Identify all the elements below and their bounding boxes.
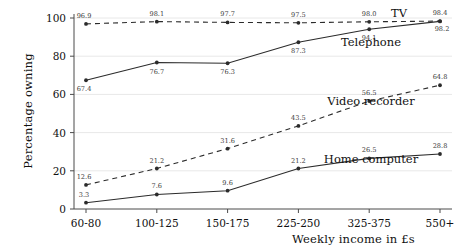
svg-text:7.6: 7.6 xyxy=(152,182,163,190)
svg-text:550+: 550+ xyxy=(426,217,455,229)
svg-text:80: 80 xyxy=(53,50,66,62)
svg-text:3.3: 3.3 xyxy=(79,191,90,199)
svg-text:100-125: 100-125 xyxy=(135,217,179,229)
svg-text:60-80: 60-80 xyxy=(71,217,101,229)
svg-text:225-250: 225-250 xyxy=(277,217,321,229)
chart-container: 020406080100 60-80100-125150-175225-2503… xyxy=(0,0,466,251)
svg-text:Home computer: Home computer xyxy=(324,152,419,166)
svg-text:60: 60 xyxy=(53,88,66,100)
y-axis-title: Percentage owning xyxy=(21,41,35,181)
svg-text:87.3: 87.3 xyxy=(291,47,306,55)
svg-text:20: 20 xyxy=(53,165,66,177)
svg-text:98.4: 98.4 xyxy=(433,9,448,17)
svg-text:Telephone: Telephone xyxy=(341,35,401,49)
x-axis-ticks: 60-80100-125150-175225-250325-375550+ xyxy=(71,209,455,229)
svg-text:96.9: 96.9 xyxy=(77,12,92,20)
svg-text:325-375: 325-375 xyxy=(347,217,391,229)
svg-text:43.5: 43.5 xyxy=(291,114,306,122)
svg-text:21.2: 21.2 xyxy=(149,157,164,165)
svg-text:40: 40 xyxy=(53,127,66,139)
svg-text:98.2: 98.2 xyxy=(435,25,450,33)
svg-text:97.7: 97.7 xyxy=(220,10,235,18)
svg-text:28.8: 28.8 xyxy=(433,142,448,150)
svg-text:64.8: 64.8 xyxy=(433,73,448,81)
svg-text:76.3: 76.3 xyxy=(220,68,235,76)
series-name-labels: TVTelephoneVideo recorderHome computer xyxy=(324,6,419,166)
line-chart-plot: 020406080100 60-80100-125150-175225-2503… xyxy=(0,0,466,251)
svg-text:98.1: 98.1 xyxy=(149,10,164,18)
y-axis-ticks: 020406080100 xyxy=(46,12,74,215)
svg-text:100: 100 xyxy=(46,12,66,24)
svg-text:150-175: 150-175 xyxy=(206,217,250,229)
svg-text:12.6: 12.6 xyxy=(77,173,92,181)
svg-text:21.2: 21.2 xyxy=(291,157,306,165)
svg-text:0: 0 xyxy=(59,203,66,215)
svg-text:98.0: 98.0 xyxy=(362,10,377,18)
svg-text:76.7: 76.7 xyxy=(149,68,164,76)
svg-text:67.4: 67.4 xyxy=(77,85,92,93)
svg-text:9.6: 9.6 xyxy=(222,179,233,187)
svg-text:31.6: 31.6 xyxy=(220,137,235,145)
svg-text:97.5: 97.5 xyxy=(291,11,306,19)
svg-text:Video recorder: Video recorder xyxy=(326,94,415,108)
svg-text:TV: TV xyxy=(391,6,408,20)
x-axis-title: Weekly income in £s xyxy=(292,232,415,246)
